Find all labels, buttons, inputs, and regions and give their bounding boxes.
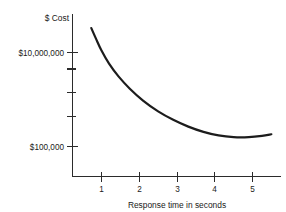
- axes-group: [73, 14, 282, 177]
- cost-curve-line: [91, 28, 271, 137]
- y-tick-label-lower: $100,000: [30, 143, 65, 152]
- x-tick-label-3: 3: [175, 185, 180, 194]
- x-tick-label-4: 4: [212, 185, 217, 194]
- chart-canvas: $10,000,000 $100,000 1 2 3 4 5 $ Cost Re…: [0, 0, 286, 212]
- cost-response-time-chart: $10,000,000 $100,000 1 2 3 4 5 $ Cost Re…: [0, 0, 286, 212]
- x-axis-title: Response time in seconds: [128, 200, 226, 210]
- y-tick-label-upper: $10,000,000: [18, 49, 64, 58]
- y-axis-tick-labels: $10,000,000 $100,000: [18, 49, 64, 152]
- x-axis-tick-labels: 1 2 3 4 5: [99, 185, 255, 194]
- x-tick-label-2: 2: [137, 185, 142, 194]
- y-axis-title: $ Cost: [45, 13, 70, 23]
- x-tick-label-1: 1: [99, 185, 104, 194]
- x-tick-label-5: 5: [250, 185, 255, 194]
